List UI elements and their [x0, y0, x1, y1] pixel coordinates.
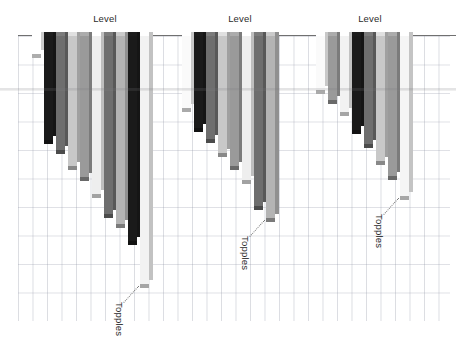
bar-bottom-cap — [316, 90, 325, 94]
bar-top-cap — [128, 32, 137, 36]
bar-chart: LevelLevelLevel TopplesTopplesTopples — [0, 0, 456, 348]
bar-front-face — [316, 36, 325, 90]
bar-bottom-cap — [218, 153, 227, 157]
bar-g2-7 — [254, 36, 263, 206]
bar-bottom-cap — [328, 100, 337, 104]
bar-bottom-cap — [128, 241, 137, 245]
bar-top-cap — [316, 32, 325, 36]
bar-top-cap — [206, 32, 215, 36]
bar-g1-7 — [104, 36, 113, 214]
bar-front-face — [218, 36, 227, 153]
group-label-level-1: Level — [93, 13, 117, 24]
bar-g1-1 — [32, 36, 41, 54]
bar-g3-7 — [388, 36, 397, 176]
bar-top-cap — [92, 32, 101, 36]
bar-g1-10 — [140, 36, 149, 284]
bar-front-face — [376, 36, 385, 161]
bar-front-face — [80, 36, 89, 177]
bar-front-face — [230, 36, 239, 166]
bar-front-face — [352, 36, 361, 130]
bar-front-face — [128, 36, 137, 241]
bar-top-cap — [56, 32, 65, 36]
bar-bottom-cap — [254, 206, 263, 210]
bar-top-cap — [116, 32, 125, 36]
bar-g2-6 — [242, 36, 251, 180]
bar-g2-8 — [266, 36, 275, 218]
bar-bottom-cap — [376, 161, 385, 165]
annotation-topples-1: Topples — [114, 302, 125, 336]
bar-g3-2 — [328, 36, 337, 100]
group-label-level-3: Level — [358, 13, 382, 24]
bar-bottom-cap — [364, 144, 373, 148]
bar-front-face — [388, 36, 397, 176]
bar-bottom-cap — [104, 214, 113, 218]
bar-g3-1 — [316, 36, 325, 90]
bar-top-cap — [32, 32, 41, 36]
bar-g2-1 — [182, 36, 191, 108]
bar-top-cap — [218, 32, 227, 36]
bar-bottom-cap — [206, 139, 215, 143]
bar-front-face — [340, 36, 349, 112]
bar-top-cap — [328, 32, 337, 36]
bar-g3-4 — [352, 36, 361, 130]
bar-top-cap — [364, 32, 373, 36]
bar-front-face — [116, 36, 125, 224]
bar-top-cap — [194, 32, 203, 36]
bar-bottom-cap — [44, 140, 53, 144]
bar-top-cap — [230, 32, 239, 36]
bar-g1-4 — [68, 36, 77, 166]
bar-g1-2 — [44, 36, 53, 140]
bar-side-face — [409, 32, 413, 192]
bar-g2-2 — [194, 36, 203, 128]
bar-top-cap — [104, 32, 113, 36]
bar-bottom-cap — [194, 128, 203, 132]
bar-top-cap — [376, 32, 385, 36]
bar-bottom-cap — [32, 54, 41, 58]
bar-g3-6 — [376, 36, 385, 161]
bar-bottom-cap — [266, 218, 275, 222]
annotation-topples-2: Topples — [240, 236, 251, 270]
bar-top-cap — [242, 32, 251, 36]
bar-front-face — [32, 36, 41, 54]
bar-top-cap — [44, 32, 53, 36]
bar-side-face — [149, 32, 153, 280]
bar-top-cap — [182, 32, 191, 36]
bar-bottom-cap — [242, 180, 251, 184]
bar-g1-3 — [56, 36, 65, 150]
bar-front-face — [254, 36, 263, 206]
bar-front-face — [206, 36, 215, 139]
bar-g1-6 — [92, 36, 101, 194]
bar-g1-9 — [128, 36, 137, 241]
bar-top-cap — [80, 32, 89, 36]
bar-g3-5 — [364, 36, 373, 144]
bar-top-cap — [254, 32, 263, 36]
bar-front-face — [140, 36, 149, 284]
bar-top-cap — [400, 32, 409, 36]
bar-front-face — [104, 36, 113, 214]
bar-top-cap — [388, 32, 397, 36]
bar-side-face — [275, 32, 279, 214]
bar-front-face — [56, 36, 65, 150]
bar-bottom-cap — [140, 284, 149, 288]
bar-bottom-cap — [352, 130, 361, 134]
bar-front-face — [400, 36, 409, 196]
bar-front-face — [266, 36, 275, 218]
bar-g2-3 — [206, 36, 215, 139]
bar-front-face — [182, 36, 191, 108]
bar-top-cap — [140, 32, 149, 36]
bar-g3-8 — [400, 36, 409, 196]
bar-g3-3 — [340, 36, 349, 112]
bar-top-cap — [340, 32, 349, 36]
bar-top-cap — [68, 32, 77, 36]
bar-front-face — [194, 36, 203, 128]
bar-front-face — [44, 36, 53, 140]
group-label-level-2: Level — [228, 13, 252, 24]
bar-front-face — [364, 36, 373, 144]
bar-top-cap — [352, 32, 361, 36]
annotation-topples-3: Topples — [374, 214, 385, 248]
bar-g2-4 — [218, 36, 227, 153]
bar-bottom-cap — [400, 196, 409, 200]
bar-front-face — [328, 36, 337, 100]
bar-bottom-cap — [116, 224, 125, 228]
bar-bottom-cap — [92, 194, 101, 198]
